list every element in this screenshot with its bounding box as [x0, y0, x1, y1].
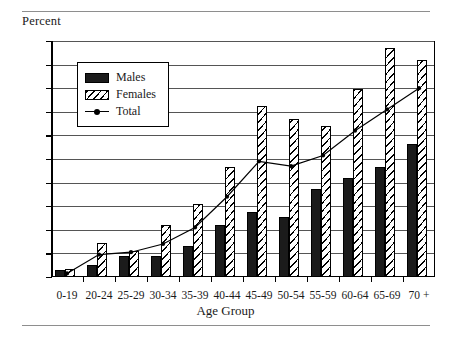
- total-point-25-29: [129, 250, 133, 254]
- y-axis-title: Percent: [22, 14, 61, 29]
- y-axis-line: [51, 41, 53, 277]
- legend-item-total: Total: [85, 103, 161, 120]
- x-tick-label: 60-64: [342, 289, 369, 301]
- total-line-marker-icon: [85, 107, 109, 117]
- top-divider-rule: [22, 11, 430, 12]
- chart-figure: Percent Age Group 02468101214161820 0-19…: [0, 0, 451, 337]
- x-tick-label: 30-34: [150, 289, 177, 301]
- legend-item-females: Females: [85, 86, 161, 103]
- total-point-50-54: [289, 164, 293, 168]
- bottom-divider-rule: [22, 325, 430, 326]
- x-axis-title: Age Group: [0, 303, 451, 319]
- males-swatch-icon: [85, 73, 109, 83]
- total-point-70 +: [417, 86, 421, 90]
- x-tick-label: 65-69: [374, 289, 401, 301]
- total-point-60-64: [353, 129, 357, 133]
- y-tick-mark: [46, 277, 52, 278]
- x-tick-label: 45-49: [246, 289, 273, 301]
- total-point-55-59: [321, 153, 325, 157]
- total-point-40-44: [225, 195, 229, 199]
- x-tick-label: 50-54: [278, 289, 305, 301]
- x-tick-label: 35-39: [182, 289, 209, 301]
- total-point-65-69: [385, 107, 389, 111]
- x-tick-label: 70 +: [409, 289, 430, 301]
- legend-label-females: Females: [116, 87, 156, 102]
- x-tick-label: 20-24: [86, 289, 113, 301]
- x-tick-label: 0-19: [56, 289, 77, 301]
- right-axis-line: [434, 41, 436, 277]
- x-tick-label: 40-44: [214, 289, 241, 301]
- total-point-35-39: [193, 225, 197, 229]
- x-tick-label: 25-29: [118, 289, 145, 301]
- total-point-20-24: [97, 252, 101, 256]
- legend-item-males: Males: [85, 69, 161, 86]
- x-tick-label: 55-59: [310, 289, 337, 301]
- legend-label-total: Total: [116, 104, 141, 119]
- total-point-45-49: [257, 159, 261, 163]
- females-swatch-icon: [85, 90, 109, 100]
- total-point-30-34: [161, 242, 165, 246]
- x-axis-line: [51, 276, 435, 278]
- legend-box: Males Females Total: [77, 62, 169, 127]
- legend-label-males: Males: [116, 70, 145, 85]
